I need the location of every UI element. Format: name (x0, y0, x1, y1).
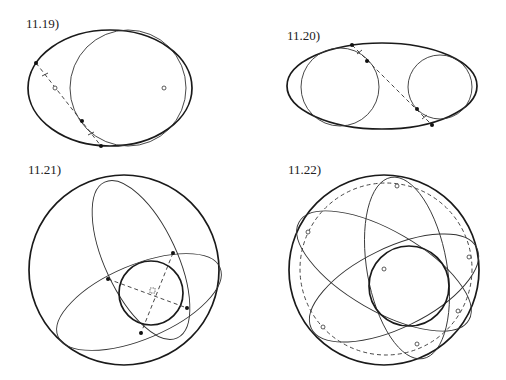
open-point-marker (395, 184, 399, 188)
focus-marker (162, 86, 166, 90)
tall-ellipse (352, 170, 463, 365)
point-marker (185, 306, 189, 310)
open-point-marker (456, 309, 460, 313)
focus-marker (53, 86, 57, 90)
point-marker (99, 144, 103, 148)
open-point-marker (321, 325, 325, 329)
panel-label: 11.21) (28, 162, 61, 177)
figure-canvas: 11.19) 11.20) 11.21) (0, 0, 506, 380)
point-marker (430, 123, 434, 127)
open-point-marker (415, 342, 419, 346)
outer-circle (29, 175, 219, 365)
panel-label: 11.22) (288, 162, 321, 177)
point-marker (350, 43, 354, 47)
dashed-tangent (352, 45, 432, 125)
tick-mark (42, 73, 48, 76)
open-point-marker (306, 230, 310, 234)
dashed-axis (141, 253, 173, 333)
right-angle-marker (150, 288, 155, 293)
point-marker (106, 277, 110, 281)
outer-ellipse (28, 30, 192, 146)
tall-ellipse (72, 167, 210, 353)
point-marker (415, 107, 419, 111)
point-marker (171, 251, 175, 255)
center-marker (382, 267, 386, 271)
inner-circle (369, 246, 449, 326)
panel-11-20: 11.20) (287, 28, 477, 129)
panel-label: 11.19) (26, 16, 59, 31)
panel-11-22: 11.22) (279, 162, 494, 366)
panel-label: 11.20) (287, 28, 320, 43)
panel-11-19: 11.19) (26, 16, 192, 148)
point-marker (80, 119, 84, 123)
point-marker (365, 59, 369, 63)
point-marker (139, 331, 143, 335)
panel-11-21: 11.21) (28, 162, 234, 370)
open-point-marker (467, 255, 471, 259)
point-marker (34, 61, 38, 65)
